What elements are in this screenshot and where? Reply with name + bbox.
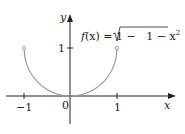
function-exponent: 2 xyxy=(176,29,180,37)
function-radicand: 1 − x xyxy=(146,30,175,43)
origin-label: 0 xyxy=(62,100,69,111)
y-tick-label-1: 1 xyxy=(58,43,65,54)
endpoint-left xyxy=(22,46,25,49)
y-axis-label: y xyxy=(60,12,66,23)
function-label: f(x) = 1 − 1 − x2 xyxy=(81,30,180,42)
x-axis-label: x xyxy=(164,100,170,111)
x-tick-label-neg1: −1 xyxy=(16,102,32,113)
x-tick-label-1: 1 xyxy=(114,102,121,113)
function-lhs: (x) = 1 − xyxy=(85,30,139,43)
y-axis-arrow-icon xyxy=(67,14,73,22)
chart-figure: y x 0 −1 1 1 f(x) = 1 − 1 − x2 xyxy=(0,0,185,134)
